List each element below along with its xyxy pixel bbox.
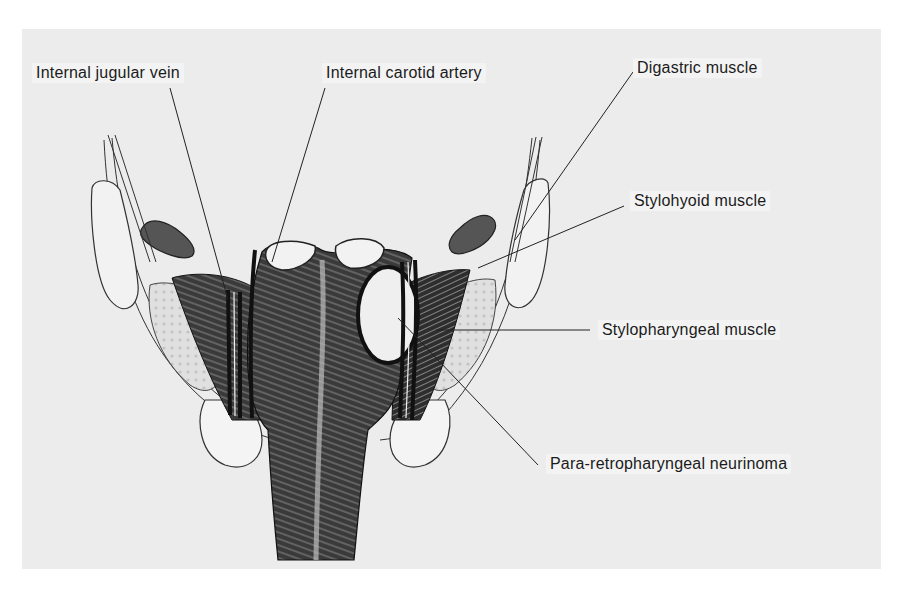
label-stylohyoid-muscle: Stylohyoid muscle: [630, 191, 770, 211]
label-internal-jugular-vein: Internal jugular vein: [32, 63, 184, 83]
label-stylopharyngeal-muscle: Stylopharyngeal muscle: [598, 320, 780, 340]
anatomical-illustration: [0, 0, 908, 591]
label-digastric-muscle: Digastric muscle: [633, 58, 762, 78]
label-internal-carotid-artery: Internal carotid artery: [322, 63, 486, 83]
label-para-retropharyngeal-neurinoma: Para-retropharyngeal neurinoma: [546, 454, 791, 474]
